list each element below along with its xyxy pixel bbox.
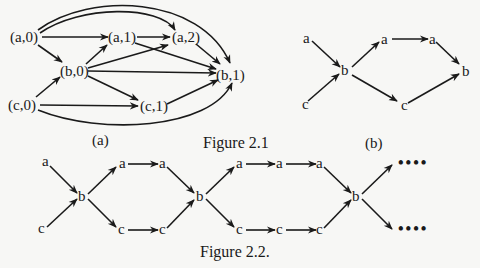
node-a1: (a,1) bbox=[108, 29, 136, 46]
node-c22: c bbox=[276, 221, 283, 237]
node-c-in: c bbox=[38, 220, 45, 236]
edge-b3-bottom bbox=[362, 199, 392, 229]
node-a-1: a bbox=[381, 31, 388, 47]
edge-c-b1 bbox=[47, 199, 77, 227]
node-c11: c bbox=[118, 221, 125, 237]
node-a2: (a,2) bbox=[172, 29, 200, 46]
edge-a2-b bbox=[436, 42, 459, 64]
edge-a1-b1 bbox=[135, 43, 216, 69]
node-c12: c bbox=[159, 221, 166, 237]
edge-c1-b1 bbox=[167, 80, 218, 104]
edge-c23-b3 bbox=[324, 200, 351, 228]
node-a-in: a bbox=[303, 30, 310, 46]
edge-c-b bbox=[308, 74, 339, 101]
edge-b1-c11 bbox=[88, 199, 116, 227]
node-b-out: b bbox=[462, 63, 470, 79]
figure-2-1-caption: Figure 2.1 bbox=[203, 134, 269, 152]
edge-a-b bbox=[312, 41, 340, 67]
node-a21: a bbox=[236, 155, 243, 171]
node-a22: a bbox=[276, 155, 283, 171]
subfigure-b-label: (b) bbox=[365, 135, 383, 152]
edge-b3-top bbox=[362, 165, 392, 194]
ellipsis-top: •••• bbox=[398, 154, 428, 171]
edge-b1-a11 bbox=[88, 167, 116, 194]
node-c1: (c,1) bbox=[140, 98, 168, 115]
node-c21: c bbox=[236, 221, 243, 237]
edge-a0-b0 bbox=[38, 45, 62, 62]
node-c23: c bbox=[316, 221, 323, 237]
ellipsis-bottom: •••• bbox=[398, 220, 428, 237]
figure-2-1-b-graph: a c b a a c b (b) bbox=[302, 30, 470, 152]
node-b1: (b,1) bbox=[216, 67, 245, 84]
edge-b-a1 bbox=[352, 42, 379, 67]
figure-2-2-caption: Figure 2.2. bbox=[200, 243, 270, 261]
edge-b-c1 bbox=[352, 75, 397, 101]
node-a-in: a bbox=[42, 153, 49, 169]
edge-a23-b3 bbox=[324, 167, 351, 193]
edge-c0-b1-curve bbox=[38, 83, 232, 125]
node-b0: (b,0) bbox=[60, 63, 89, 80]
figure-2-2-graph: a c b a a c c b a a a c c c b •••• •••• bbox=[38, 153, 428, 237]
edge-c0-c1 bbox=[40, 105, 138, 106]
edge-b2-c21 bbox=[206, 199, 234, 227]
node-c0: (c,0) bbox=[8, 97, 36, 114]
node-b-mid: b bbox=[341, 62, 349, 78]
edge-b2-a21 bbox=[206, 167, 234, 194]
node-a0: (a,0) bbox=[10, 29, 38, 46]
edge-c1-b bbox=[408, 74, 459, 103]
edge-c12-b2 bbox=[167, 200, 194, 228]
edge-a12-b2 bbox=[167, 167, 194, 193]
edge-a-b1 bbox=[50, 166, 77, 193]
node-b2: b bbox=[196, 188, 204, 204]
figure-2-1-a-graph: (a,0) (b,0) (c,0) (a,1) (a,2) (c,1) (b,1… bbox=[8, 6, 245, 149]
edge-b0-a1 bbox=[86, 45, 107, 64]
figure-page: (a,0) (b,0) (c,0) (a,1) (a,2) (c,1) (b,1… bbox=[0, 0, 480, 268]
subfigure-a-label: (a) bbox=[92, 132, 109, 149]
node-c-in: c bbox=[302, 96, 309, 112]
node-c-1: c bbox=[401, 97, 408, 113]
node-a23: a bbox=[316, 155, 323, 171]
edge-b0-a2 bbox=[88, 45, 168, 68]
node-a-2: a bbox=[429, 31, 436, 47]
edge-b0-b1 bbox=[88, 71, 216, 73]
edge-b0-c1 bbox=[88, 76, 138, 100]
node-b3: b bbox=[352, 188, 360, 204]
node-a11: a bbox=[119, 155, 126, 171]
node-a12: a bbox=[159, 155, 166, 171]
edge-a2-b1 bbox=[196, 44, 220, 64]
edge-c0-b0 bbox=[36, 77, 60, 97]
node-b1: b bbox=[78, 188, 86, 204]
